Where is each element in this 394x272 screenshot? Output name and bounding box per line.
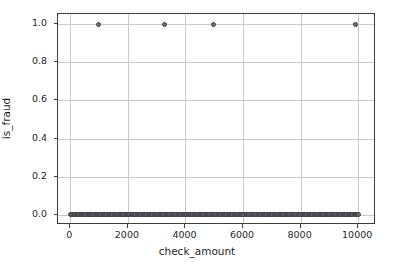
- x-axis-tick-label: 0: [66, 229, 72, 241]
- y-axis-tick-label: 0.4: [32, 132, 47, 144]
- x-axis-tick: [242, 224, 243, 228]
- x-axis-tick: [69, 224, 70, 228]
- x-axis-label: check_amount: [0, 245, 394, 257]
- x-axis-tick-label: 2000: [115, 229, 139, 241]
- gridline-horizontal: [58, 139, 374, 140]
- x-axis-tick: [184, 224, 185, 228]
- y-axis-tick: [54, 138, 58, 139]
- data-point: [353, 22, 358, 27]
- gridline-horizontal: [58, 100, 374, 101]
- y-axis-tick: [54, 23, 58, 24]
- gridline-horizontal: [58, 62, 374, 63]
- y-axis-tick-label: 0.6: [32, 93, 47, 105]
- plot-area: [57, 13, 375, 224]
- gridline-vertical: [301, 14, 302, 223]
- gridline-horizontal: [58, 24, 374, 25]
- x-axis-tick: [300, 224, 301, 228]
- x-axis-tick-label: 10000: [342, 229, 372, 241]
- data-point: [162, 22, 167, 27]
- y-axis-tick: [54, 176, 58, 177]
- y-axis-tick: [54, 61, 58, 62]
- y-axis-tick-label: 0.0: [32, 208, 47, 220]
- x-axis-tick-label: 8000: [288, 229, 312, 241]
- scatter-plot-figure: 02000400060008000100000.00.20.40.60.81.0…: [0, 0, 394, 272]
- y-axis-tick-label: 0.8: [32, 55, 47, 67]
- y-axis-tick: [54, 99, 58, 100]
- x-axis-tick-label: 4000: [172, 229, 196, 241]
- gridline-vertical: [243, 14, 244, 223]
- data-point: [211, 22, 216, 27]
- y-axis-tick-label: 1.0: [32, 17, 47, 29]
- gridline-vertical: [70, 14, 71, 223]
- x-axis-tick: [127, 224, 128, 228]
- gridline-vertical: [358, 14, 359, 223]
- gridline-vertical: [128, 14, 129, 223]
- data-point: [356, 212, 361, 217]
- gridline-vertical: [185, 14, 186, 223]
- data-point: [96, 22, 101, 27]
- x-axis-tick-label: 6000: [230, 229, 254, 241]
- x-axis-tick: [357, 224, 358, 228]
- y-axis-tick: [54, 214, 58, 215]
- y-axis-label: is_fraud: [0, 13, 13, 224]
- gridline-horizontal: [58, 177, 374, 178]
- y-axis-tick-label: 0.2: [32, 170, 47, 182]
